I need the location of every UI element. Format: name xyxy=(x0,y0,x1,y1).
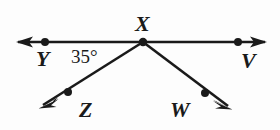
angle-measure-label: 35° xyxy=(71,47,98,66)
point-label-Y: Y xyxy=(36,48,49,70)
point-dot-X xyxy=(139,38,147,46)
point-dot-Y xyxy=(41,38,49,46)
point-dot-V xyxy=(234,38,242,46)
geometry-figure: X Y V Z W 35° xyxy=(0,0,280,130)
point-label-V: V xyxy=(241,50,256,72)
point-label-X: X xyxy=(135,13,150,35)
point-dot-W xyxy=(201,89,209,97)
point-label-Z: Z xyxy=(79,99,92,121)
point-dot-Z xyxy=(64,88,72,96)
point-label-W: W xyxy=(170,99,190,121)
